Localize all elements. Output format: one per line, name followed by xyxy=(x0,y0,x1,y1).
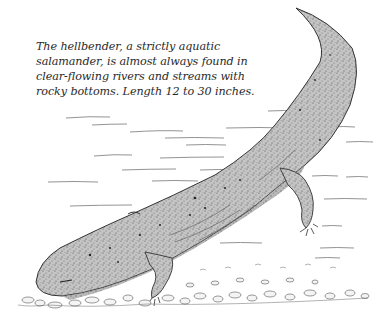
figure-caption: The hellbender, a strictly aquatic salam… xyxy=(36,39,266,99)
salamander-rear-leg xyxy=(280,168,318,236)
figure-page: The hellbender, a strictly aquatic salam… xyxy=(0,0,392,327)
